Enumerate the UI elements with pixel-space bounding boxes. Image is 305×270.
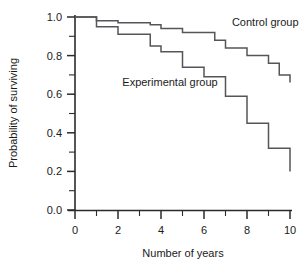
experimental-group-label: Experimental group [122,76,217,88]
experimental-group-curve [75,17,290,171]
y-tick-label: 1.0 [47,11,62,23]
x-tick-label: 6 [201,224,207,236]
y-axis-tick-labels: 1.0 0.8 0.6 0.4 0.2 0.0 [47,11,62,216]
y-tick-label: 0.2 [47,165,62,177]
y-axis-title: Probability of surviving [7,58,19,168]
x-axis-tick-labels: 0 2 4 6 8 10 [72,224,296,236]
x-tick-label: 0 [72,224,78,236]
series-curves [75,17,290,171]
y-tick-label: 0.8 [47,50,62,62]
x-tick-label: 2 [115,224,121,236]
survival-curve-figure: 1.0 0.8 0.6 0.4 0.2 0.0 0 2 4 6 8 10 Num… [0,0,305,270]
x-tick-label: 10 [284,224,296,236]
y-tick-label: 0.6 [47,88,62,100]
control-group-label: Control group [232,16,299,28]
y-axis-minor-ticks [69,36,75,190]
x-axis-title: Number of years [142,247,224,259]
x-tick-label: 4 [158,224,164,236]
axes-group [68,15,292,211]
y-tick-label: 0.0 [47,204,62,216]
y-tick-label: 0.4 [47,127,62,139]
x-tick-label: 8 [244,224,250,236]
chart-canvas: 1.0 0.8 0.6 0.4 0.2 0.0 0 2 4 6 8 10 Num… [0,0,305,270]
